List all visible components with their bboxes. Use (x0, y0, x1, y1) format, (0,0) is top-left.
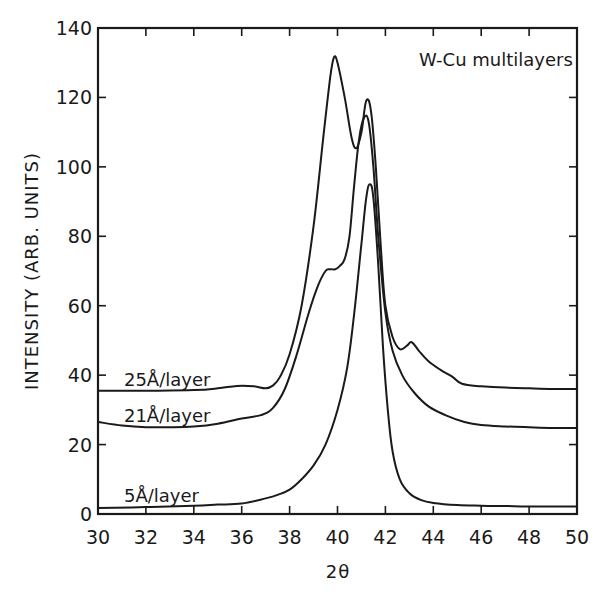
x-tick-label: 50 (565, 526, 589, 548)
curve-labels: 25Å/layer21Å/layer5Å/layer (124, 369, 211, 506)
y-tick-label: 0 (80, 503, 92, 525)
plot-border (98, 28, 577, 514)
xrd-chart: 3032343638404244464850 02040608010012014… (0, 0, 602, 604)
plot-frame (98, 28, 577, 514)
y-tick-label: 40 (68, 364, 92, 386)
x-tick-label: 40 (325, 526, 349, 548)
x-tick-label: 38 (278, 526, 302, 548)
curve-label: 25Å/layer (124, 369, 211, 390)
chart-title: W-Cu multilayers (419, 49, 573, 70)
x-tick-label: 32 (134, 526, 158, 548)
x-tick-label: 42 (373, 526, 397, 548)
y-tick-label: 100 (56, 156, 92, 178)
x-tick-label: 48 (517, 526, 541, 548)
y-tick-label: 120 (56, 86, 92, 108)
x-tick-label: 46 (469, 526, 493, 548)
curve-label: 5Å/layer (124, 485, 200, 506)
y-tick-label: 80 (68, 225, 92, 247)
x-tick-label: 44 (421, 526, 445, 548)
x-axis-ticks: 3032343638404244464850 (86, 28, 589, 548)
x-tick-label: 36 (230, 526, 254, 548)
y-tick-label: 20 (68, 434, 92, 456)
x-tick-label: 30 (86, 526, 110, 548)
curve-label: 21Å/layer (124, 405, 211, 426)
y-tick-label: 60 (68, 295, 92, 317)
curve-25A-per-layer (98, 56, 577, 391)
x-tick-label: 34 (182, 526, 206, 548)
curve-5A-per-layer (98, 184, 577, 508)
x-axis-label: 2θ (326, 561, 350, 582)
curves (98, 56, 577, 508)
y-tick-label: 140 (56, 17, 92, 39)
y-axis-ticks: 020406080100120140 (56, 17, 577, 525)
y-axis-label: INTENSITY (ARB. UNITS) (21, 152, 42, 390)
